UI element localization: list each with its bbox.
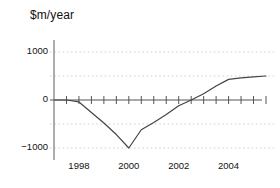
x-axis-tick-label: 2002	[159, 160, 199, 171]
data-series-line	[54, 76, 266, 148]
y-axis-tick-label: 0	[43, 93, 48, 104]
y-axis-tick-label: 1000	[27, 45, 48, 56]
y-axis-tick-label: −1000	[21, 141, 48, 152]
x-axis-tick-label: 2004	[209, 160, 249, 171]
x-axis-tick-label: 2000	[109, 160, 149, 171]
x-axis-tick-label: 1998	[59, 160, 99, 171]
chart-container: $m/year 10000−1000 1998200020022004	[0, 0, 280, 188]
